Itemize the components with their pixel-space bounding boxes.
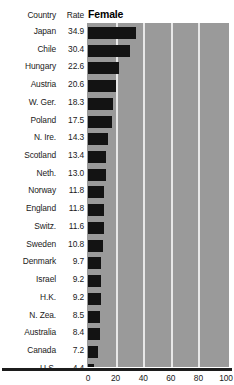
bar bbox=[88, 80, 116, 92]
row-country-label: N. Zea. bbox=[0, 310, 56, 320]
row-country-label: Austria bbox=[0, 79, 56, 89]
bar bbox=[88, 240, 103, 252]
row-country-label: N. Ire. bbox=[0, 132, 56, 142]
row-country-label: Australia bbox=[0, 327, 56, 337]
bar bbox=[88, 45, 130, 57]
chart-title: Female bbox=[88, 8, 123, 20]
gridline bbox=[143, 23, 145, 367]
row-country-label: Japan bbox=[0, 26, 56, 36]
table-row: Japan34.9 bbox=[0, 26, 84, 38]
table-row: W. Ger.18.3 bbox=[0, 97, 84, 109]
table-row: Chile30.4 bbox=[0, 44, 84, 56]
table-header-row: Country Rate bbox=[0, 10, 84, 22]
row-rate-value: 10.8 bbox=[56, 239, 84, 249]
table-row: H.K.9.2 bbox=[0, 292, 84, 304]
table-row: Denmark9.7 bbox=[0, 256, 84, 268]
table-row: N. Ire.14.3 bbox=[0, 132, 84, 144]
row-rate-value: 13.4 bbox=[56, 150, 84, 160]
bar bbox=[88, 27, 136, 39]
x-axis-tick-label: 0 bbox=[76, 373, 100, 383]
table-row: Norway11.8 bbox=[0, 185, 84, 197]
row-country-label: England bbox=[0, 203, 56, 213]
plot-area bbox=[87, 23, 229, 367]
gridline bbox=[171, 23, 173, 367]
row-country-label: Chile bbox=[0, 44, 56, 54]
row-country-label: Norway bbox=[0, 185, 56, 195]
bar bbox=[88, 204, 104, 216]
row-rate-value: 34.9 bbox=[56, 26, 84, 36]
table-row: Austria20.6 bbox=[0, 79, 84, 91]
x-axis-tick-label: 80 bbox=[186, 373, 210, 383]
column-header-rate: Rate bbox=[56, 10, 84, 20]
row-country-label: Sweden bbox=[0, 239, 56, 249]
x-axis-tick-label: 40 bbox=[131, 373, 155, 383]
table-row: Australia8.4 bbox=[0, 327, 84, 339]
table-row: Sweden10.8 bbox=[0, 239, 84, 251]
bar bbox=[88, 346, 98, 358]
row-country-label: Neth. bbox=[0, 168, 56, 178]
x-axis-line bbox=[2, 368, 232, 371]
table-row: Poland17.5 bbox=[0, 115, 84, 127]
table-row: Israel9.2 bbox=[0, 274, 84, 286]
row-rate-value: 8.5 bbox=[56, 310, 84, 320]
table-row: Scotland13.4 bbox=[0, 150, 84, 162]
row-rate-value: 9.2 bbox=[56, 292, 84, 302]
row-rate-value: 14.3 bbox=[56, 132, 84, 142]
table-row: Canada7.2 bbox=[0, 345, 84, 357]
row-rate-value: 8.4 bbox=[56, 327, 84, 337]
bar bbox=[88, 62, 119, 74]
row-rate-value: 13.0 bbox=[56, 168, 84, 178]
gridline bbox=[198, 23, 200, 367]
x-axis-tick-label: 20 bbox=[104, 373, 128, 383]
bar bbox=[88, 116, 112, 128]
row-country-label: H.K. bbox=[0, 292, 56, 302]
bar bbox=[88, 98, 113, 110]
row-country-label: Scotland bbox=[0, 150, 56, 160]
row-rate-value: 22.6 bbox=[56, 61, 84, 71]
row-rate-value: 17.5 bbox=[56, 115, 84, 125]
row-rate-value: 9.7 bbox=[56, 256, 84, 266]
table-row: Neth.13.0 bbox=[0, 168, 84, 180]
row-rate-value: 30.4 bbox=[56, 44, 84, 54]
bar bbox=[88, 169, 106, 181]
x-axis-tick-label: 100 bbox=[214, 373, 234, 383]
row-country-label: Israel bbox=[0, 274, 56, 284]
row-country-label: Canada bbox=[0, 345, 56, 355]
table-row: Hungary22.6 bbox=[0, 61, 84, 73]
row-country-label: Switz. bbox=[0, 221, 56, 231]
row-rate-value: 11.8 bbox=[56, 203, 84, 213]
row-rate-value: 11.8 bbox=[56, 185, 84, 195]
row-rate-value: 20.6 bbox=[56, 79, 84, 89]
bar bbox=[88, 186, 104, 198]
bar bbox=[88, 293, 101, 305]
row-country-label: Denmark bbox=[0, 256, 56, 266]
row-country-label: Hungary bbox=[0, 61, 56, 71]
bar bbox=[88, 311, 100, 323]
bar bbox=[88, 151, 106, 163]
table-row: Switz.11.6 bbox=[0, 221, 84, 233]
row-rate-value: 7.2 bbox=[56, 345, 84, 355]
row-rate-value: 18.3 bbox=[56, 97, 84, 107]
table-row: N. Zea.8.5 bbox=[0, 310, 84, 322]
bar bbox=[88, 133, 108, 145]
bar bbox=[88, 275, 101, 287]
chart-container: Country Rate Japan34.9Chile30.4Hungary22… bbox=[0, 0, 234, 385]
row-rate-value: 11.6 bbox=[56, 221, 84, 231]
bar bbox=[88, 364, 94, 367]
category-label-column: Country Rate Japan34.9Chile30.4Hungary22… bbox=[0, 0, 84, 385]
bar bbox=[88, 222, 104, 234]
x-axis-tick-label: 60 bbox=[159, 373, 183, 383]
row-country-label: W. Ger. bbox=[0, 97, 56, 107]
gridline bbox=[116, 23, 118, 367]
column-header-country: Country bbox=[0, 10, 56, 20]
row-country-label: Poland bbox=[0, 115, 56, 125]
bar bbox=[88, 257, 101, 269]
bar bbox=[88, 328, 100, 340]
table-row: England11.8 bbox=[0, 203, 84, 215]
row-rate-value: 9.2 bbox=[56, 274, 84, 284]
